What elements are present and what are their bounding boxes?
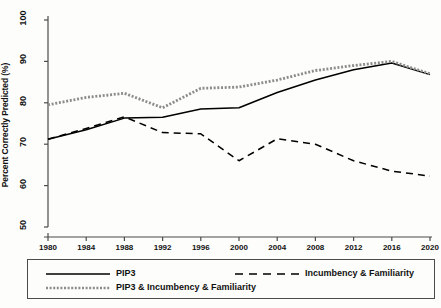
chart-figure: Percent Correctly Predicted (%) 50607080… (0, 0, 441, 308)
x-tick-label: 1996 (186, 243, 216, 252)
y-tick-label: 70 (18, 131, 28, 153)
series-layer (48, 61, 430, 176)
y-tick-label: 60 (18, 173, 28, 195)
legend-key-incumbency-familiarity (235, 269, 299, 279)
y-tick-label: 100 (18, 7, 28, 29)
legend: PIP3 Incumbency & Familiarity PIP3 & Inc… (27, 259, 435, 299)
x-tick-label: 2020 (415, 243, 441, 252)
y-tick-label: 80 (18, 90, 28, 112)
x-tick-label: 1984 (71, 243, 101, 252)
legend-label-pip3-incumbency-familiarity: PIP3 & Incumbency & Familiarity (116, 282, 256, 292)
axes-layer (44, 16, 432, 241)
x-tick-label: 2004 (262, 243, 292, 252)
x-tick-label: 2016 (377, 243, 407, 252)
x-tick-label: 2000 (224, 243, 254, 252)
series-line-dashed (48, 117, 430, 176)
x-tick-label: 1980 (33, 243, 63, 252)
y-tick-label: 50 (18, 214, 28, 236)
legend-key-pip3 (46, 269, 110, 279)
legend-label-incumbency-familiarity: Incumbency & Familiarity (305, 268, 414, 278)
legend-label-pip3: PIP3 (116, 268, 136, 278)
series-line-solid (48, 63, 430, 139)
x-tick-label: 2012 (339, 243, 369, 252)
y-axis-label: Percent Correctly Predicted (%) (0, 20, 12, 230)
x-tick-label: 1988 (109, 243, 139, 252)
series-line-dotted (48, 61, 430, 107)
y-tick-label: 90 (18, 48, 28, 70)
legend-key-pip3-incumbency-familiarity (46, 283, 110, 293)
x-tick-label: 1992 (148, 243, 178, 252)
x-tick-label: 2008 (300, 243, 330, 252)
